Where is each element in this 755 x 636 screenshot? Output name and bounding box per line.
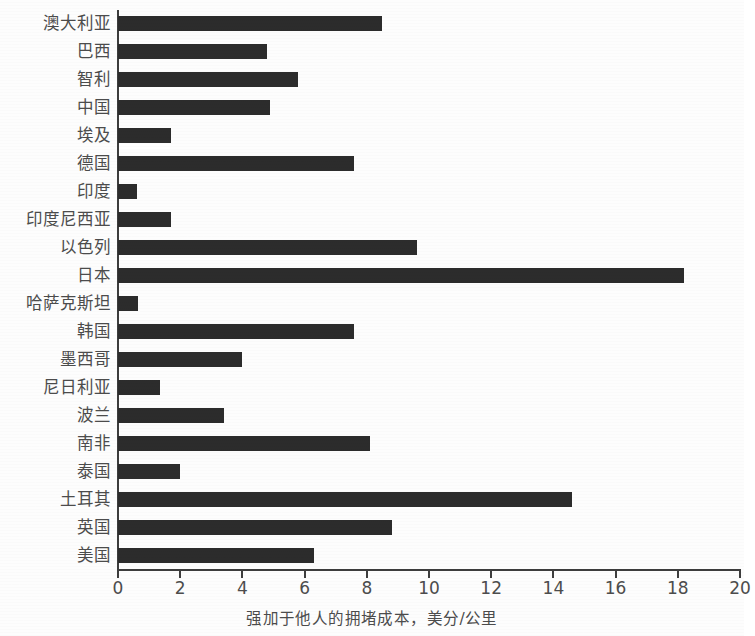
bar-row: 泰国 [118, 458, 740, 486]
bar-row: 德国 [118, 150, 740, 178]
category-label: 泰国 [0, 458, 111, 486]
bar-row: 以色列 [118, 234, 740, 262]
x-tick-mark [428, 571, 430, 578]
x-tick-mark [241, 571, 243, 578]
bar-row: 尼日利亚 [118, 374, 740, 402]
x-tick-mark [490, 571, 492, 578]
x-axis-title: 强加于他人的拥堵成本，美分/公里 [0, 606, 744, 628]
x-tick-label: 4 [222, 578, 262, 598]
bar [118, 296, 138, 311]
bar-row: 埃及 [118, 122, 740, 150]
x-tick-mark [179, 571, 181, 578]
bar [118, 212, 171, 227]
bar [118, 156, 354, 171]
x-tick-mark [615, 571, 617, 578]
bar [118, 408, 224, 423]
category-label: 日本 [0, 262, 111, 290]
bar [118, 240, 417, 255]
category-label: 南非 [0, 430, 111, 458]
x-tick-label: 12 [471, 578, 511, 598]
x-tick-label: 10 [409, 578, 449, 598]
bar-row: 印度 [118, 178, 740, 206]
x-tick-mark [304, 571, 306, 578]
bar [118, 520, 392, 535]
bar-row: 韩国 [118, 318, 740, 346]
bar-row: 墨西哥 [118, 346, 740, 374]
x-tick-mark [677, 571, 679, 578]
category-label: 美国 [0, 542, 111, 570]
bar [118, 100, 270, 115]
x-tick-label: 14 [533, 578, 573, 598]
bar-row: 智利 [118, 66, 740, 94]
category-label: 印度 [0, 178, 111, 206]
bar-row: 英国 [118, 514, 740, 542]
plot-area: 澳大利亚巴西智利中国埃及德国印度印度尼西亚以色列日本哈萨克斯坦韩国墨西哥尼日利亚… [118, 10, 740, 570]
x-tick-label: 18 [658, 578, 698, 598]
category-label: 波兰 [0, 402, 111, 430]
category-label: 德国 [0, 150, 111, 178]
category-label: 英国 [0, 514, 111, 542]
category-label: 澳大利亚 [0, 10, 111, 38]
bar [118, 492, 572, 507]
bar-row: 印度尼西亚 [118, 206, 740, 234]
bar [118, 380, 160, 395]
x-tick-label: 20 [720, 578, 755, 598]
category-label: 韩国 [0, 318, 111, 346]
bar-row: 哈萨克斯坦 [118, 290, 740, 318]
bar [118, 268, 684, 283]
x-tick-label: 0 [98, 578, 138, 598]
bar-row: 美国 [118, 542, 740, 570]
bar-row: 南非 [118, 430, 740, 458]
bar [118, 324, 354, 339]
bar [118, 16, 382, 31]
bar [118, 464, 180, 479]
bar-row: 澳大利亚 [118, 10, 740, 38]
bar [118, 548, 314, 563]
x-tick-mark [117, 571, 119, 578]
x-tick-mark [739, 571, 741, 578]
category-label: 土耳其 [0, 486, 111, 514]
category-label: 尼日利亚 [0, 374, 111, 402]
bar-row: 日本 [118, 262, 740, 290]
x-tick-label: 8 [347, 578, 387, 598]
bar-row: 巴西 [118, 38, 740, 66]
x-tick-label: 2 [160, 578, 200, 598]
bar [118, 184, 137, 199]
category-label: 智利 [0, 66, 111, 94]
bar [118, 128, 171, 143]
bar-row: 土耳其 [118, 486, 740, 514]
category-label: 以色列 [0, 234, 111, 262]
category-label: 巴西 [0, 38, 111, 66]
x-tick-label: 16 [596, 578, 636, 598]
category-label: 墨西哥 [0, 346, 111, 374]
bar [118, 44, 267, 59]
category-label: 埃及 [0, 122, 111, 150]
x-tick-mark [366, 571, 368, 578]
bar [118, 72, 298, 87]
bar-row: 中国 [118, 94, 740, 122]
category-label: 哈萨克斯坦 [0, 290, 111, 318]
x-tick-label: 6 [285, 578, 325, 598]
bar [118, 352, 242, 367]
bar [118, 436, 370, 451]
category-label: 印度尼西亚 [0, 206, 111, 234]
bar-row: 波兰 [118, 402, 740, 430]
x-tick-mark [552, 571, 554, 578]
category-label: 中国 [0, 94, 111, 122]
